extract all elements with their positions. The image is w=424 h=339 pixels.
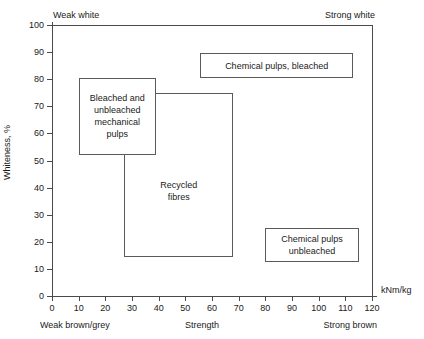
region-label-chemical-pulps-unbleached: Chemical pulps unbleached — [278, 233, 346, 257]
region-mechanical-pulps: Bleached and unbleached mechanical pulps — [79, 78, 156, 155]
region-chemical-pulps-unbleached: Chemical pulps unbleached — [265, 228, 358, 262]
x-tick-label-90: 90 — [280, 304, 304, 313]
y-tick-70 — [47, 106, 52, 107]
x-tick-110 — [345, 296, 346, 301]
y-tick-label-30: 30 — [22, 211, 44, 220]
x-tick-60 — [212, 296, 213, 301]
region-label-recycled-fibres: Recycled fibres — [157, 179, 200, 203]
x-tick-label-30: 30 — [120, 304, 144, 313]
y-tick-label-50: 50 — [22, 157, 44, 166]
y-tick-40 — [47, 188, 52, 189]
annotation-weak-white: Weak white — [53, 11, 99, 20]
y-tick-20 — [47, 242, 52, 243]
y-axis-line — [52, 22, 53, 299]
x-tick-70 — [239, 296, 240, 301]
x-axis-title: Strength — [172, 321, 232, 330]
x-tick-label-40: 40 — [147, 304, 171, 313]
x-tick-10 — [79, 296, 80, 301]
region-chemical-pulps-bleached: Chemical pulps, bleached — [200, 53, 353, 77]
y-tick-label-0: 0 — [22, 292, 44, 301]
x-tick-50 — [185, 296, 186, 301]
x-tick-30 — [132, 296, 133, 301]
y-tick-50 — [47, 161, 52, 162]
y-tick-label-70: 70 — [22, 102, 44, 111]
x-tick-100 — [319, 296, 320, 301]
y-tick-label-40: 40 — [22, 184, 44, 193]
y-tick-label-60: 60 — [22, 129, 44, 138]
annotation-weak-brown-grey: Weak brown/grey — [40, 321, 110, 330]
x-tick-label-60: 60 — [200, 304, 224, 313]
x-tick-label-20: 20 — [93, 304, 117, 313]
pulp-properties-chart: 0102030405060708090100 01020304050607080… — [0, 0, 424, 339]
y-tick-80 — [47, 79, 52, 80]
y-tick-60 — [47, 133, 52, 134]
x-axis-unit-label: kNm/kg — [381, 286, 412, 295]
y-tick-10 — [47, 269, 52, 270]
y-tick-label-10: 10 — [22, 265, 44, 274]
x-tick-label-70: 70 — [227, 304, 251, 313]
y-tick-100 — [47, 25, 52, 26]
plot-top-border — [52, 25, 373, 26]
x-tick-label-100: 100 — [307, 304, 331, 313]
y-tick-label-20: 20 — [22, 238, 44, 247]
y-tick-label-90: 90 — [22, 48, 44, 57]
x-tick-label-110: 110 — [333, 304, 357, 313]
x-tick-label-10: 10 — [67, 304, 91, 313]
annotation-strong-brown: Strong brown — [323, 321, 377, 330]
x-axis-line — [52, 296, 377, 297]
region-label-chemical-pulps-bleached: Chemical pulps, bleached — [222, 60, 331, 72]
plot-right-border — [372, 25, 373, 296]
x-tick-label-0: 0 — [40, 304, 64, 313]
x-tick-40 — [159, 296, 160, 301]
x-tick-120 — [372, 296, 373, 301]
y-tick-label-100: 100 — [22, 21, 44, 30]
y-tick-30 — [47, 215, 52, 216]
x-tick-90 — [292, 296, 293, 301]
region-label-mechanical-pulps: Bleached and unbleached mechanical pulps — [87, 92, 148, 140]
x-tick-20 — [105, 296, 106, 301]
x-tick-label-120: 120 — [360, 304, 384, 313]
y-tick-label-80: 80 — [22, 75, 44, 84]
x-tick-0 — [52, 296, 53, 301]
x-tick-label-50: 50 — [173, 304, 197, 313]
y-axis-title: Whiteness, % — [3, 113, 12, 193]
annotation-strong-white: Strong white — [325, 11, 375, 20]
x-tick-80 — [265, 296, 266, 301]
y-tick-90 — [47, 52, 52, 53]
x-tick-label-80: 80 — [253, 304, 277, 313]
